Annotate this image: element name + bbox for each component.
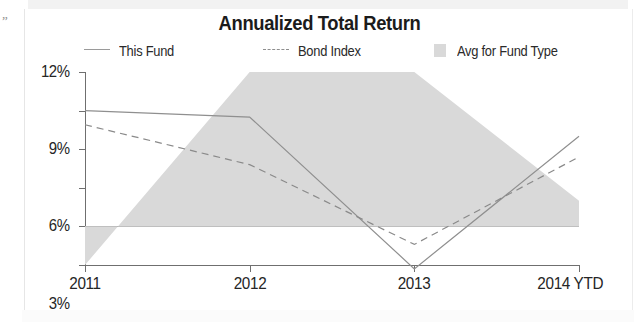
panel-border-left bbox=[24, 9, 25, 310]
x-axis-tick bbox=[579, 265, 580, 272]
dashed-line-swatch-icon bbox=[263, 44, 289, 56]
legend-item-this-fund[interactable]: This Fund bbox=[84, 40, 183, 60]
plot-area: -3%0%3%6%9%12% 2011201220132014 YTD bbox=[85, 72, 578, 265]
y-axis-tick-label: 12% bbox=[41, 62, 70, 82]
area-series-avg-for-fund-type bbox=[85, 72, 579, 265]
y-axis-tick-label: 3% bbox=[49, 294, 70, 314]
legend-label-avg-for-fund-type: Avg for Fund Type bbox=[457, 42, 558, 59]
x-axis-tick-label: 2013 bbox=[398, 274, 431, 294]
area-fill-swatch-icon bbox=[434, 44, 446, 57]
x-axis-tick bbox=[85, 265, 86, 272]
legend-label-this-fund: This Fund bbox=[119, 42, 174, 59]
series-layer bbox=[85, 72, 579, 266]
scan-artifact-top bbox=[28, 0, 628, 9]
legend-label-bond-index: Bond Index bbox=[298, 42, 361, 59]
panel-border-right bbox=[632, 9, 633, 310]
annualized-total-return-chart: „ Annualized Total Return This Fund Bond… bbox=[0, 0, 639, 322]
y-axis-tick-label: 9% bbox=[49, 139, 70, 159]
x-axis-tick bbox=[250, 265, 251, 272]
y-axis-tick-label: 6% bbox=[49, 216, 70, 236]
x-axis-tick-label: 2011 bbox=[69, 274, 100, 294]
scan-artifact-bottom bbox=[22, 310, 634, 322]
chart-title: Annualized Total Return bbox=[26, 12, 614, 35]
solid-line-swatch-icon bbox=[84, 44, 110, 56]
x-axis-tick-label: 2014 YTD bbox=[537, 274, 603, 294]
legend-item-bond-index[interactable]: Bond Index bbox=[263, 40, 371, 60]
legend-item-avg-for-fund-type[interactable]: Avg for Fund Type bbox=[428, 40, 574, 60]
scan-artifact-corner-mark: „ bbox=[2, 8, 11, 28]
x-axis-tick-label: 2012 bbox=[233, 274, 266, 294]
chart-legend: This Fund Bond Index Avg for Fund Type bbox=[78, 40, 578, 60]
